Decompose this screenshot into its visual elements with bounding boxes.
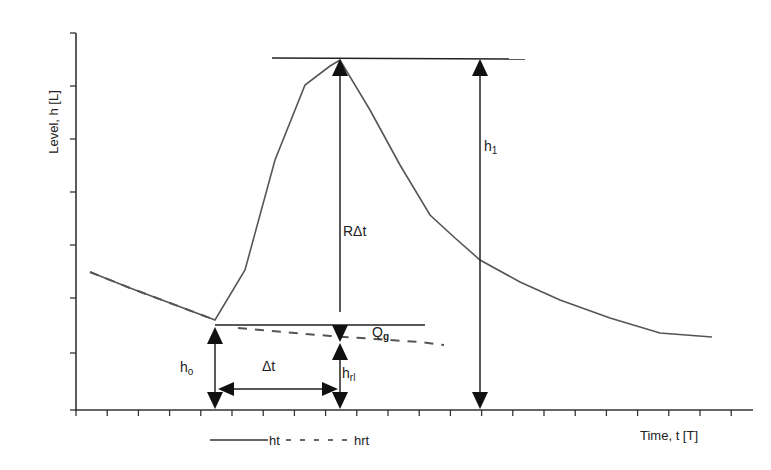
legend-ht-label: ht	[269, 433, 280, 448]
h1-arrow	[472, 59, 488, 409]
peak-level-line	[272, 58, 525, 59]
x-axis	[75, 410, 753, 416]
dt-label: Δt	[262, 358, 275, 374]
ht-curve	[90, 60, 712, 337]
legend: ht hrt	[210, 433, 370, 448]
water-table-fluctuation-diagram: Level, h [L] Time, t [T] ho Δt hrl	[0, 0, 771, 470]
r-dt-arrow	[332, 59, 348, 342]
r-dt-label: RΔt	[343, 223, 366, 239]
y-axis-label: Level, h [L]	[46, 90, 61, 154]
hrl-label: hrl	[342, 365, 355, 383]
ho-arrow	[207, 327, 223, 409]
y-axis	[70, 33, 76, 411]
h1-label: h1	[484, 138, 498, 156]
x-axis-label: Time, t [T]	[640, 428, 698, 443]
ho-label: ho	[180, 359, 194, 377]
dt-arrow	[218, 382, 338, 396]
legend-hrt-label: hrt	[354, 433, 370, 448]
qg-label: Qg	[372, 324, 389, 342]
